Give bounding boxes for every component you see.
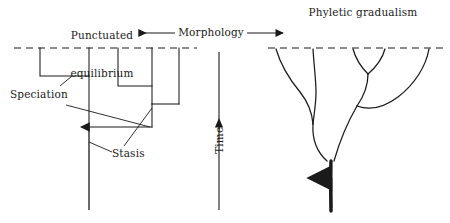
axis-label-morphology: Morphology — [176, 26, 246, 39]
branch-tip-4 — [368, 49, 385, 74]
branch-tip-3 — [353, 49, 368, 74]
branch-node-c-to-root — [334, 106, 357, 161]
speciation-leader-line-2 — [66, 105, 150, 127]
annotation-label-stasis: Stasis — [112, 147, 145, 160]
axis-label-time: Time — [213, 117, 226, 163]
title-line-1: Punctuated — [42, 29, 162, 42]
title-line-2: equilibrium — [42, 67, 162, 80]
branch-tip-2 — [313, 49, 316, 124]
branch-tip-1 — [276, 49, 313, 124]
stasis-leader-line — [89, 142, 112, 152]
branch-node-a-to-root — [313, 124, 327, 161]
page-title-phyletic-gradualism: Phyletic gradualism — [288, 6, 438, 19]
phyletic-gradualism-tree — [276, 49, 429, 161]
annotation-label-speciation: Speciation — [10, 88, 68, 101]
branch-node-b-to-c — [357, 74, 368, 106]
figure-root: Punctuated equilibrium Phyletic graduali… — [0, 0, 450, 223]
